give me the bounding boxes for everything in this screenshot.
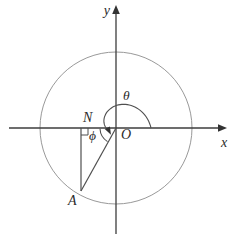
theta-arc xyxy=(104,104,151,128)
theta-label: θ xyxy=(123,88,130,103)
phi-arc xyxy=(100,129,108,142)
y-axis-arrow-icon xyxy=(112,5,120,14)
diagram-canvas: y x O N A θ ϕ xyxy=(0,0,238,243)
origin-label: O xyxy=(121,127,131,142)
right-angle-mark xyxy=(81,128,88,135)
x-axis-arrow-icon xyxy=(218,124,227,132)
segment-oa xyxy=(81,128,116,191)
point-a-label: A xyxy=(67,193,77,208)
point-n-label: N xyxy=(82,110,93,125)
y-axis-label: y xyxy=(102,3,111,18)
phi-label: ϕ xyxy=(89,128,96,143)
x-axis-label: x xyxy=(220,135,228,150)
figure: y x O N A θ ϕ xyxy=(0,0,238,243)
